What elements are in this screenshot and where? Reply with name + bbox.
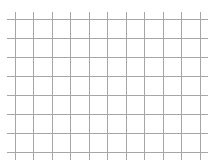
- grid-lines: [0, 0, 214, 166]
